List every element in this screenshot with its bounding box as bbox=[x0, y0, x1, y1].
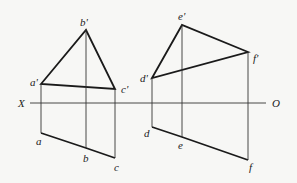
axis-label-o: O bbox=[272, 97, 280, 109]
label-b: b bbox=[83, 152, 89, 164]
label-c: c bbox=[114, 161, 119, 173]
top-view-line bbox=[152, 127, 248, 160]
label-a: a bbox=[36, 135, 42, 147]
label-f: f bbox=[249, 161, 254, 173]
label-f-prime: f' bbox=[253, 52, 259, 64]
label-e: e bbox=[178, 139, 183, 151]
label-b-prime: b' bbox=[80, 16, 89, 28]
front-view-triangle bbox=[152, 25, 248, 78]
axis-label-x: X bbox=[17, 97, 26, 109]
label-d-prime: d' bbox=[140, 72, 149, 84]
label-e-prime: e' bbox=[178, 10, 186, 22]
label-c-prime: c' bbox=[121, 83, 129, 95]
label-d: d bbox=[144, 127, 150, 139]
label-a-prime: a' bbox=[30, 76, 39, 88]
front-view-triangle bbox=[41, 30, 115, 89]
triangle-abc: b' a' c' a b c bbox=[30, 16, 129, 173]
top-view-line bbox=[41, 133, 115, 158]
projection-diagram: X O b' a' c' a b c e' d' f' d e f bbox=[0, 0, 297, 183]
triangle-def: e' d' f' d e f bbox=[140, 10, 259, 173]
